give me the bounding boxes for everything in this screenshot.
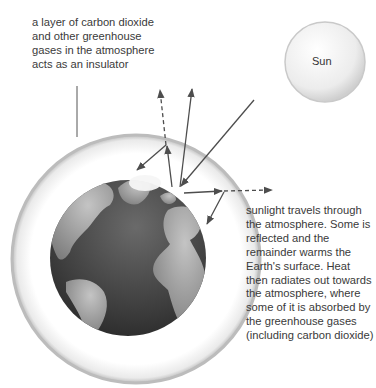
sunlight-label: sunlight travels through the atmosphere.… xyxy=(246,204,374,343)
sun-label: Sun xyxy=(312,55,332,67)
insulator-label: a layer of carbon dioxide and other gree… xyxy=(32,16,162,72)
